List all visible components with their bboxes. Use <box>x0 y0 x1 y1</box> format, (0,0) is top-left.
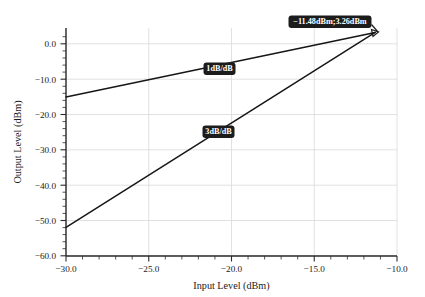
x-tick-label: −30.0 <box>55 264 77 274</box>
x-tick-label: −20.0 <box>221 264 243 274</box>
x-axis-title: Input Level (dBm) <box>193 280 269 292</box>
y-axis-title: Output Level (dBm) <box>12 100 24 183</box>
annotation-ip3-label: −11.48dBm;3.26dBm <box>293 17 367 26</box>
annotation-thirdorder-slope[interactable]: 3dB/dB <box>203 126 235 139</box>
y-tick-label: −10.0 <box>35 75 57 85</box>
annotation-1db-label: 1dB/dB <box>206 64 233 73</box>
y-axis-tick-labels: 0.0 −10.0 −20.0 −30.0 −40.0 −50.0 −60.0 <box>35 39 57 261</box>
y-tick-label: −60.0 <box>35 251 57 261</box>
annotation-3db-label: 3dB/dB <box>205 127 232 136</box>
y-tick-label: −20.0 <box>35 110 57 120</box>
iip3-chart: 0.0 −10.0 −20.0 −30.0 −40.0 −50.0 −60.0 … <box>0 0 425 297</box>
x-tick-label: −15.0 <box>304 264 326 274</box>
y-tick-label: −30.0 <box>35 145 57 155</box>
x-axis-tick-labels: −30.0 −25.0 −20.0 −15.0 −10.0 <box>55 264 408 274</box>
annotation-fundamental-slope[interactable]: 1dB/dB <box>204 63 236 76</box>
y-tick-label: −50.0 <box>35 216 57 226</box>
y-tick-label: −40.0 <box>35 181 57 191</box>
plot-canvas: 0.0 −10.0 −20.0 −30.0 −40.0 −50.0 −60.0 … <box>0 0 425 297</box>
y-axis-major-ticks <box>61 44 67 256</box>
x-tick-label: −25.0 <box>138 264 160 274</box>
y-tick-label: 0.0 <box>45 39 57 49</box>
x-tick-label: −10.0 <box>386 264 408 274</box>
